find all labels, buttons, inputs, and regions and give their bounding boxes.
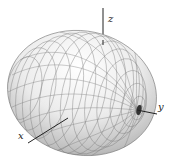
surface-plot: z xyxy=(0,0,172,166)
x-axis-label: x xyxy=(18,130,24,141)
z-axis-label: z xyxy=(107,13,114,24)
y-axis-label: y xyxy=(157,101,164,112)
egg-surface xyxy=(0,17,168,166)
